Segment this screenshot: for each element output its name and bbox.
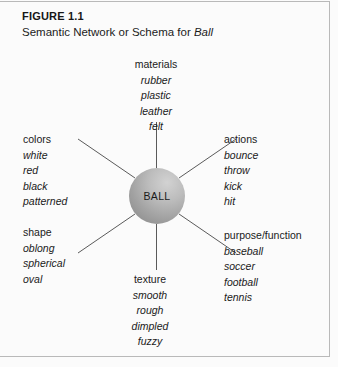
cluster-head-colors: colors xyxy=(23,132,143,148)
cluster-item: white xyxy=(23,148,143,164)
cluster-item: red xyxy=(23,163,143,179)
cluster-texture: texture smooth rough dimpled fuzzy xyxy=(90,272,210,350)
cluster-item: baseball xyxy=(224,244,334,260)
cluster-head-materials: materials xyxy=(96,57,216,73)
cluster-item: bounce xyxy=(224,148,334,164)
cluster-purpose-function: purpose/function baseball soccer footbal… xyxy=(224,228,334,306)
cluster-item: smooth xyxy=(90,288,210,304)
center-node-label: BALL xyxy=(144,190,171,202)
cluster-item: tennis xyxy=(224,290,334,306)
cluster-item: dimpled xyxy=(90,319,210,335)
cluster-item: hit xyxy=(224,194,334,210)
cluster-item: throw xyxy=(224,163,334,179)
cluster-head-purpose-function: purpose/function xyxy=(224,228,334,244)
cluster-actions: actions bounce throw kick hit xyxy=(224,132,334,210)
cluster-head-shape: shape xyxy=(23,225,143,241)
cluster-head-actions: actions xyxy=(224,132,334,148)
cluster-head-texture: texture xyxy=(90,272,210,288)
cluster-item: rough xyxy=(90,303,210,319)
cluster-item: plastic xyxy=(96,88,216,104)
cluster-materials: materials rubber plastic leather felt xyxy=(96,57,216,135)
cluster-item: spherical xyxy=(23,256,143,272)
cluster-item: football xyxy=(224,275,334,291)
cluster-item: soccer xyxy=(224,259,334,275)
figure-container: FIGURE 1.1 Semantic Network or Schema fo… xyxy=(0,0,338,367)
cluster-item: patterned xyxy=(23,194,143,210)
cluster-colors: colors white red black patterned xyxy=(23,132,143,210)
cluster-item: black xyxy=(23,179,143,195)
cluster-item: fuzzy xyxy=(90,334,210,350)
cluster-item: oblong xyxy=(23,241,143,257)
cluster-item: rubber xyxy=(96,73,216,89)
cluster-item: kick xyxy=(224,179,334,195)
cluster-item: leather xyxy=(96,104,216,120)
